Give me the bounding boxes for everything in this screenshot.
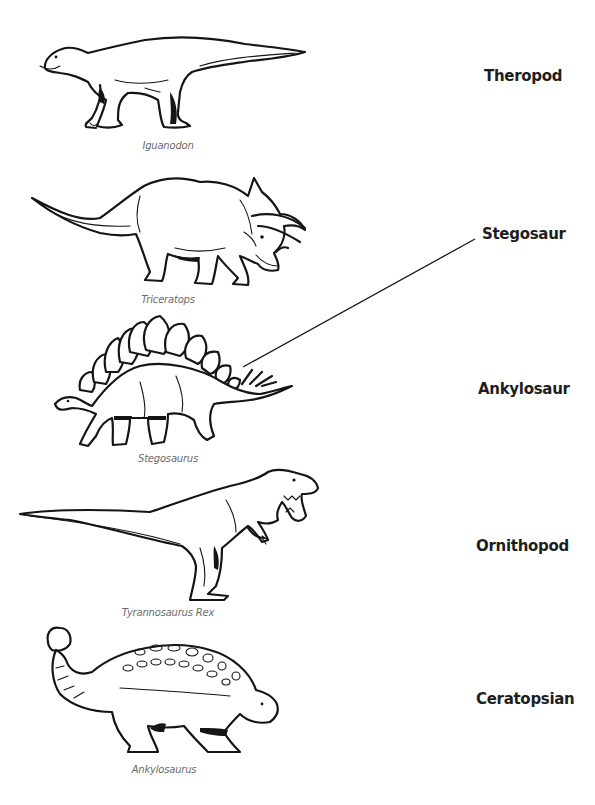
stegosaurus-illustration[interactable] [55,316,292,446]
caption-stegosaurus: Stegosaurus [138,453,198,464]
ankylosaurus-illustration[interactable] [48,628,278,752]
caption-tyrannosaurus-rex: Tyrannosaurus Rex [122,607,214,618]
group-label-stegosaur[interactable]: Stegosaur [482,225,566,243]
group-label-ankylosaur[interactable]: Ankylosaur [478,380,570,398]
group-label-ornithopod[interactable]: Ornithopod [476,537,569,555]
caption-iguanodon: Iguanodon [142,140,193,151]
match-line-stegosaurus-to-stegosaur [243,239,475,367]
tyrannosaurus-rex-illustration[interactable] [20,470,318,600]
triceratops-illustration[interactable] [32,178,305,285]
group-label-theropod[interactable]: Theropod [484,67,562,85]
worksheet-artwork [0,0,595,805]
group-label-ceratopsian[interactable]: Ceratopsian [476,690,575,708]
caption-triceratops: Triceratops [141,294,195,305]
iguanodon-illustration[interactable] [40,37,305,128]
caption-ankylosaurus: Ankylosaurus [132,764,197,775]
